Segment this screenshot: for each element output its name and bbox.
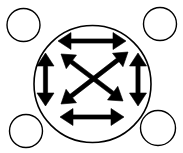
symmetry-arrow-diagram xyxy=(0,0,183,153)
figure-container xyxy=(0,0,183,153)
